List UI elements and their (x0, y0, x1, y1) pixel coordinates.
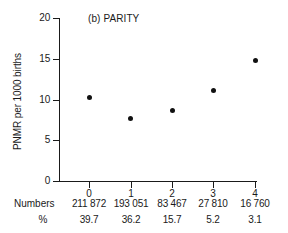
data-point (128, 116, 133, 121)
y-tick-label-5: 5 (26, 135, 50, 145)
y-tick-mark-10 (53, 100, 59, 101)
table-row: % 39.7 36.2 15.7 5.2 3.1 (0, 214, 288, 228)
y-tick-mark-15 (53, 59, 59, 60)
row-header-percent: % (28, 214, 58, 225)
y-tick-label-20: 20 (26, 13, 50, 23)
numbers-cell-4: 16 760 (228, 198, 282, 209)
y-tick-label-15: 15 (26, 54, 50, 64)
y-tick-label-0: 0 (26, 176, 50, 186)
percent-cell-4: 3.1 (228, 214, 282, 225)
figure-panel-b-parity: (b) PARITY PNMR per 1000 births 20 15 10… (0, 0, 288, 233)
data-point (87, 95, 92, 100)
data-point (170, 108, 175, 113)
data-point (211, 88, 216, 93)
table-row: Numbers 211 872 193 051 83 467 27 810 16… (0, 198, 288, 212)
y-tick-label-10: 10 (26, 95, 50, 105)
y-tick-mark-20 (53, 18, 59, 19)
y-tick-mark-0 (53, 181, 59, 182)
data-point (253, 58, 258, 63)
y-tick-mark-5 (53, 140, 59, 141)
